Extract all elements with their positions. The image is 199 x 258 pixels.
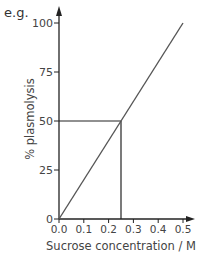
- x-tick-label: 0.5: [175, 223, 192, 235]
- y-axis-arrow-icon: [56, 6, 62, 16]
- x-tick-label: 0.3: [125, 223, 142, 235]
- y-tick-label: 25: [39, 164, 53, 177]
- x-tick-label: 0.0: [51, 223, 68, 235]
- chart: e.g. 02550751000.00.10.20.30.40.5Sucrose…: [0, 0, 199, 258]
- example-prefix: e.g.: [4, 5, 29, 20]
- x-axis-arrow-icon: [186, 216, 195, 222]
- x-tick-label: 0.1: [75, 223, 92, 235]
- y-tick-label: 75: [39, 66, 53, 79]
- y-tick-label: 100: [32, 17, 53, 30]
- y-tick-label: 50: [39, 115, 53, 128]
- plot-area: 02550751000.00.10.20.30.40.5Sucrose conc…: [0, 0, 199, 258]
- x-tick-label: 0.4: [150, 223, 167, 235]
- y-axis-label: % plasmolysis: [23, 78, 37, 160]
- x-tick-label: 0.2: [100, 223, 117, 235]
- x-axis-label: Sucrose concentration / M: [46, 239, 196, 253]
